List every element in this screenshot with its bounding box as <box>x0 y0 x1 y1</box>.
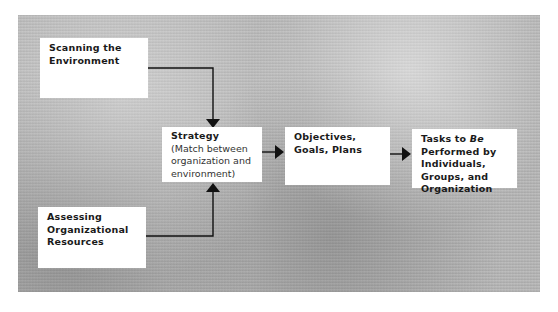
arrowhead-up-icon <box>206 183 220 192</box>
node-subtitle: (Match between organization and environm… <box>171 143 253 181</box>
node-title: Objectives, Goals, Plans <box>294 131 381 156</box>
connector-scanning-to-strategy <box>148 68 213 120</box>
node-strategy: Strategy (Match between organization and… <box>162 127 262 182</box>
title-part: Tasks to <box>421 133 470 144</box>
node-title: Assessing Organizational Resources <box>47 211 137 249</box>
connector-assessing-to-strategy <box>146 191 213 236</box>
node-scanning-environment: Scanning the Environment <box>40 38 148 98</box>
title-part: Performed by Individuals, Groups, and Or… <box>421 146 496 195</box>
arrowhead-right-icon <box>402 147 411 161</box>
node-tasks: Tasks to Be Performed by Individuals, Gr… <box>412 129 517 188</box>
arrowhead-right-icon <box>275 145 284 159</box>
node-assessing-resources: Assessing Organizational Resources <box>38 207 146 268</box>
node-title: Tasks to Be Performed by Individuals, Gr… <box>421 133 508 196</box>
node-title: Strategy <box>171 130 253 143</box>
node-objectives-goals-plans: Objectives, Goals, Plans <box>285 127 390 185</box>
title-italic: Be <box>470 133 484 144</box>
node-title: Scanning the Environment <box>49 42 139 67</box>
